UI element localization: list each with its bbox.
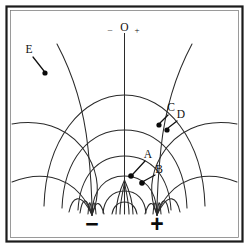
point-e-label: E	[25, 43, 32, 55]
axis-plus-label: +	[134, 25, 139, 35]
negative-charge-label: −	[85, 211, 98, 237]
point-e-dot	[42, 70, 47, 75]
axis-minus-label: –	[107, 24, 113, 34]
point-b-label: B	[155, 163, 163, 175]
point-c-label: C	[167, 101, 175, 113]
point-a-dot	[128, 173, 134, 179]
figure-canvas: – O + − + E C D A	[0, 0, 249, 248]
positive-charge-label: +	[150, 211, 163, 237]
point-d-label: D	[177, 108, 185, 120]
point-d-dot	[164, 127, 169, 132]
point-a-label: A	[144, 148, 153, 160]
point-b-dot	[139, 180, 145, 186]
axis-origin-label: O	[120, 21, 128, 33]
point-c-dot	[156, 122, 161, 127]
dipole-field-figure: – O + − + E C D A	[0, 0, 249, 248]
